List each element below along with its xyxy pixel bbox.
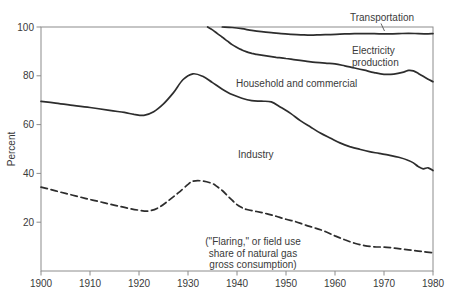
y-axis-label: Percent bbox=[6, 132, 17, 167]
x-tick-label-1970: 1970 bbox=[373, 278, 396, 289]
x-tick-label-1940: 1940 bbox=[226, 278, 249, 289]
y-tick-label-20: 20 bbox=[23, 217, 35, 228]
chart-container: 2040608010019001910192019301940195019601… bbox=[0, 0, 456, 300]
x-tick-label-1910: 1910 bbox=[79, 278, 102, 289]
x-tick-label-1980: 1980 bbox=[422, 278, 445, 289]
x-tick-label-1960: 1960 bbox=[324, 278, 347, 289]
annotation-industry-label: Industry bbox=[238, 149, 274, 160]
y-tick-label-40: 40 bbox=[23, 168, 35, 179]
annotation-household-commercial-label: Household and commercial bbox=[236, 78, 357, 89]
y-tick-label-60: 60 bbox=[23, 119, 35, 130]
y-tick-label-100: 100 bbox=[17, 22, 34, 33]
x-tick-label-1950: 1950 bbox=[275, 278, 298, 289]
x-tick-label-1900: 1900 bbox=[30, 278, 53, 289]
x-tick-label-1930: 1930 bbox=[177, 278, 200, 289]
natural-gas-share-chart: 2040608010019001910192019301940195019601… bbox=[0, 0, 456, 300]
annotation-electricity-production-label: Electricityproduction bbox=[352, 45, 399, 68]
series-transportation-curve bbox=[222, 27, 433, 35]
annotation-transportation-label: Transportation bbox=[350, 12, 414, 23]
annotation-flaring-label: ("Flaring," or field useshare of natural… bbox=[205, 236, 301, 270]
y-tick-label-80: 80 bbox=[23, 70, 35, 81]
x-tick-label-1920: 1920 bbox=[128, 278, 151, 289]
